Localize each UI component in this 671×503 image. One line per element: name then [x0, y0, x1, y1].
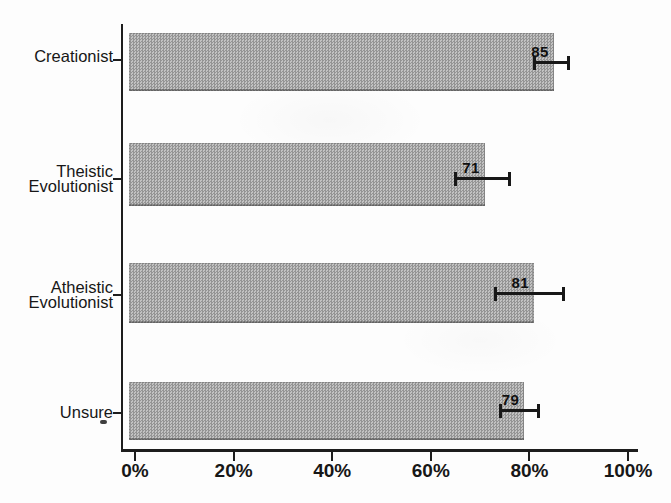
bar-value-unsure: 79	[491, 391, 529, 408]
error-bar-line-atheistic-evolutionist	[495, 292, 564, 295]
error-bar-cap-right-theistic-evolutionist	[508, 172, 511, 186]
category-label-unsure: Unsure	[0, 405, 113, 421]
scan-speck	[100, 420, 107, 424]
x-tick-label-40: 40%	[313, 460, 351, 482]
category-label-creationist: Creationist	[0, 49, 113, 65]
bar-theistic-evolutionist	[129, 143, 485, 206]
error-bar-cap-right-creationist	[567, 56, 570, 70]
scanned-bar-chart: 85Creationist71TheisticEvolutionist81Ath…	[0, 0, 671, 503]
error-bar-cap-right-atheistic-evolutionist	[562, 287, 565, 301]
bar-value-creationist: 85	[521, 43, 559, 60]
category-label-theistic-evolutionist: TheisticEvolutionist	[0, 164, 113, 195]
error-bar-line-unsure	[500, 409, 539, 412]
x-tick-label-20: 20%	[215, 460, 253, 482]
x-tick-label-60: 60%	[412, 460, 450, 482]
x-tick-label-80: 80%	[510, 460, 548, 482]
x-tick-label-0: 0%	[121, 460, 148, 482]
bar-value-atheistic-evolutionist: 81	[501, 274, 539, 291]
category-label-line: Creationist	[0, 49, 113, 65]
error-bar-line-theistic-evolutionist	[455, 177, 509, 180]
y-tick-unsure	[113, 412, 122, 414]
bar-value-theistic-evolutionist: 71	[452, 159, 490, 176]
y-tick-theistic-evolutionist	[113, 178, 122, 180]
y-tick-creationist	[113, 59, 122, 61]
category-label-line: Evolutionist	[0, 295, 113, 311]
error-bar-cap-left-atheistic-evolutionist	[494, 287, 497, 301]
plot-area: 85Creationist71TheisticEvolutionist81Ath…	[0, 0, 671, 503]
bar-atheistic-evolutionist	[129, 263, 534, 323]
error-bar-line-creationist	[534, 61, 569, 64]
bar-creationist	[129, 33, 554, 91]
x-tick-label-100: 100%	[604, 460, 653, 482]
error-bar-cap-right-unsure	[537, 404, 540, 418]
bar-unsure	[129, 382, 524, 440]
category-label-line: Unsure	[0, 405, 113, 421]
category-label-line: Evolutionist	[0, 179, 113, 195]
category-label-atheistic-evolutionist: AtheisticEvolutionist	[0, 280, 113, 311]
y-tick-atheistic-evolutionist	[113, 294, 122, 296]
